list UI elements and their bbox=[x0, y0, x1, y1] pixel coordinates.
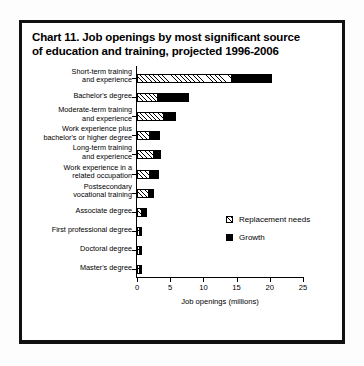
category-label-line: Associate degree bbox=[30, 207, 132, 215]
stacked-bar bbox=[137, 265, 142, 274]
x-axis-tick bbox=[203, 278, 204, 282]
y-axis-tick bbox=[132, 116, 136, 117]
category-label: Work experience plusbachelor's or higher… bbox=[30, 125, 132, 142]
category-label: Associate degree bbox=[30, 202, 132, 215]
y-axis-tick bbox=[132, 135, 136, 136]
bar-segment-replacement-needs bbox=[137, 150, 154, 159]
category-label: First professional degree bbox=[30, 221, 132, 234]
category-label-line: bachelor's or higher degree bbox=[30, 134, 132, 142]
y-axis-tick bbox=[132, 231, 136, 232]
category-label: Bachelor's degree bbox=[30, 87, 132, 100]
bar-segment-growth bbox=[140, 246, 143, 255]
chart-title-line-1: Chart 11. Job openings by most significa… bbox=[32, 31, 334, 45]
y-axis-line bbox=[136, 66, 137, 278]
bar-row: Work experience in arelated occupation bbox=[30, 164, 340, 185]
legend-label-replacement-needs: Replacement needs bbox=[239, 215, 310, 224]
category-label: Moderate-term trainingand experience bbox=[30, 106, 132, 123]
bar-segment-growth bbox=[150, 170, 159, 179]
stacked-bar bbox=[137, 170, 159, 179]
x-axis-title: Job openings (millions) bbox=[136, 297, 304, 306]
x-axis-tick-label: 15 bbox=[225, 283, 249, 292]
category-label: Long-term trainingand experience bbox=[30, 144, 132, 161]
bar-segment-replacement-needs bbox=[137, 170, 150, 179]
bar-segment-replacement-needs bbox=[137, 74, 232, 83]
x-axis-tick bbox=[137, 278, 138, 282]
bar-segment-growth bbox=[158, 93, 189, 102]
legend-swatch-solid-icon bbox=[226, 234, 233, 241]
bar-segment-growth bbox=[232, 74, 272, 83]
bar-segment-growth bbox=[140, 265, 143, 274]
category-label: Postsecondaryvocational training bbox=[30, 183, 132, 200]
category-label: Master's degree bbox=[30, 259, 132, 272]
x-axis-tick bbox=[170, 278, 171, 282]
y-axis-tick bbox=[132, 269, 136, 270]
stacked-bar bbox=[137, 74, 272, 83]
stacked-bar bbox=[137, 227, 142, 236]
chart-title: Chart 11. Job openings by most significa… bbox=[32, 31, 334, 58]
bar-segment-replacement-needs bbox=[137, 189, 149, 198]
stacked-bar bbox=[137, 208, 147, 217]
y-axis-tick bbox=[132, 174, 136, 175]
chart-frame: Chart 11. Job openings by most significa… bbox=[19, 20, 345, 344]
category-label-line: and experience bbox=[30, 76, 132, 84]
chart-inner: Chart 11. Job openings by most significa… bbox=[22, 23, 342, 341]
y-axis-tick bbox=[132, 154, 136, 155]
x-axis-tick-label: 10 bbox=[191, 283, 215, 292]
bar-segment-growth bbox=[150, 131, 160, 140]
x-axis-line bbox=[136, 277, 304, 278]
x-axis-tick-label: 5 bbox=[158, 283, 182, 292]
x-axis-tick-label: 0 bbox=[125, 283, 149, 292]
bar-segment-replacement-needs bbox=[137, 93, 158, 102]
x-axis-tick-label: 25 bbox=[291, 283, 315, 292]
stacked-bar bbox=[137, 189, 154, 198]
y-axis-tick bbox=[132, 193, 136, 194]
y-axis-tick bbox=[132, 212, 136, 213]
y-axis-tick bbox=[132, 97, 136, 98]
x-axis-tick bbox=[270, 278, 271, 282]
legend-item-replacement-needs: Replacement needs bbox=[226, 215, 310, 224]
bar-segment-growth bbox=[154, 150, 161, 159]
category-label: Short-term trainingand experience bbox=[30, 68, 132, 85]
legend-label-growth: Growth bbox=[239, 233, 265, 242]
x-axis-tick-label: 20 bbox=[258, 283, 282, 292]
stacked-bar bbox=[137, 131, 160, 140]
bar-segment-replacement-needs bbox=[137, 131, 150, 140]
legend-item-growth: Growth bbox=[226, 233, 310, 242]
bar-segment-growth bbox=[164, 112, 176, 121]
category-label-line: and experience bbox=[30, 153, 132, 161]
y-axis-tick bbox=[132, 78, 136, 79]
stacked-bar bbox=[137, 246, 142, 255]
category-label-line: vocational training bbox=[30, 191, 132, 199]
category-label-line: related occupation bbox=[30, 172, 132, 180]
stacked-bar bbox=[137, 150, 161, 159]
category-label-line: Master's degree bbox=[30, 264, 132, 272]
x-axis-tick bbox=[303, 278, 304, 282]
bar-row: Short-term trainingand experience bbox=[30, 68, 340, 89]
stacked-bar bbox=[137, 93, 189, 102]
y-axis-tick bbox=[132, 250, 136, 251]
x-axis-tick bbox=[237, 278, 238, 282]
stacked-bar bbox=[137, 112, 176, 121]
bar-segment-replacement-needs bbox=[137, 112, 164, 121]
category-label: Work experience in arelated occupation bbox=[30, 164, 132, 181]
bar-segment-growth bbox=[149, 189, 154, 198]
chart-legend: Replacement needs Growth bbox=[226, 215, 310, 251]
category-label-line: and experience bbox=[30, 115, 132, 123]
bar-segment-growth bbox=[142, 208, 147, 217]
category-label: Doctoral degree bbox=[30, 240, 132, 253]
legend-swatch-hatched-icon bbox=[226, 216, 233, 223]
category-label-line: Doctoral degree bbox=[30, 245, 132, 253]
category-label-line: First professional degree bbox=[30, 226, 132, 234]
bar-segment-growth bbox=[140, 227, 143, 236]
plot-area: Short-term trainingand experienceBachelo… bbox=[30, 64, 340, 316]
bar-row: Postsecondaryvocational training bbox=[30, 183, 340, 204]
category-label-line: Bachelor's degree bbox=[30, 92, 132, 100]
chart-title-line-2: of education and training, projected 199… bbox=[32, 45, 334, 59]
scanned-page: Chart 11. Job openings by most significa… bbox=[0, 0, 364, 366]
